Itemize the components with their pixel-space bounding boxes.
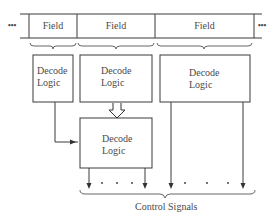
- field-braces: [30, 43, 252, 49]
- field-label-2: Field: [77, 20, 155, 32]
- field-label-1: Field: [29, 20, 77, 32]
- field-label-3: Field: [155, 20, 254, 32]
- hollow-arrow-icon: [109, 103, 125, 118]
- control-signals-label: Control Signals: [135, 201, 198, 213]
- connector-box1-box4: [55, 102, 78, 142]
- arrowheads: [70, 140, 246, 190]
- decode-label-3: Decode Logic: [189, 67, 220, 91]
- ellipsis-left: •••: [8, 20, 16, 32]
- ellipsis-right: •••: [258, 20, 266, 32]
- diagram-canvas: [0, 0, 279, 221]
- decode-label-4: Decode Logic: [102, 133, 133, 157]
- decode-label-1: Decode Logic: [37, 65, 68, 89]
- decode-label-2: Decode Logic: [101, 65, 132, 89]
- control-signals-brace: [80, 190, 255, 198]
